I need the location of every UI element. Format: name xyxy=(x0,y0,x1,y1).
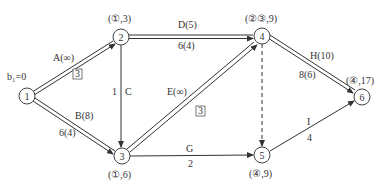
edge-c-value: 1 xyxy=(112,86,117,97)
edge-c-name: C xyxy=(125,86,132,97)
node-1: 1 xyxy=(19,88,35,104)
edge-g xyxy=(130,155,253,156)
svg-text:2: 2 xyxy=(119,32,124,43)
edge-a-value: 3 xyxy=(75,68,80,79)
edge-d xyxy=(129,35,253,39)
node-6: 6 xyxy=(354,89,370,105)
edge-i-value: 4 xyxy=(307,132,312,143)
edge-g-name: G xyxy=(186,143,193,154)
edge-i xyxy=(270,101,354,151)
node-4-mark: (②③,9) xyxy=(245,13,277,25)
node-3-mark: (①,6) xyxy=(108,169,131,181)
node-4: 4 xyxy=(254,28,270,44)
edge-b-value: 6(4) xyxy=(59,127,76,139)
node-2: 2 xyxy=(113,29,129,45)
network-diagram: 1 2 3 4 5 6 b₁=0 (①,3) (①,6) (②③,9) (④,9… xyxy=(0,0,386,189)
edge-h-value: 8(6) xyxy=(299,69,316,81)
edge-e xyxy=(127,42,257,152)
node-6-mark: (④,17) xyxy=(346,75,374,87)
edge-d-value: 6(4) xyxy=(178,40,195,52)
node-2-mark: (①,3) xyxy=(108,13,131,25)
edge-b xyxy=(33,98,115,154)
svg-text:4: 4 xyxy=(260,31,265,42)
edge-a xyxy=(33,41,115,95)
edge-h-name: H(10) xyxy=(310,50,334,62)
edge-a-name: A(∞) xyxy=(53,52,74,64)
edge-b-name: B(8) xyxy=(75,110,93,122)
edge-e-value: 3 xyxy=(198,105,203,116)
svg-text:5: 5 xyxy=(260,150,265,161)
node-5-mark: (④,9) xyxy=(249,168,272,180)
svg-text:1: 1 xyxy=(25,91,30,102)
edge-d-name: D(5) xyxy=(178,19,197,31)
svg-text:6: 6 xyxy=(360,92,365,103)
edge-h xyxy=(268,35,355,93)
edge-e-name: E(∞) xyxy=(167,86,187,98)
edge-i-name: I xyxy=(307,116,310,127)
start-label: b₁=0 xyxy=(7,71,26,82)
edge-g-value: 2 xyxy=(188,158,193,169)
node-5: 5 xyxy=(254,147,270,163)
node-3: 3 xyxy=(114,148,130,164)
svg-text:3: 3 xyxy=(120,151,125,162)
